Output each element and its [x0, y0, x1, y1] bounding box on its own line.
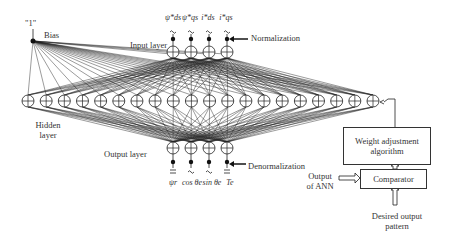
neural-network-diagram	[0, 0, 455, 239]
weight-adjustment-line2: algorithm	[370, 146, 403, 156]
input-symbol-4: i*qs	[211, 13, 241, 22]
hidden-layer-label-line2: layer	[28, 130, 68, 140]
output-of-ann-line1: Output	[300, 171, 340, 181]
weight-adjustment-line1: Weight adjustment	[355, 136, 419, 146]
hidden-layer-label: Hidden layer	[28, 120, 68, 140]
denormalization-label: Denormalization	[248, 161, 305, 171]
bias-label: Bias	[44, 30, 59, 40]
desired-output-label: Desired output pattern	[362, 211, 432, 231]
comparator-box: Comparator	[360, 169, 427, 189]
desired-output-line1: Desired output	[362, 211, 432, 221]
input-layer-label: Input layer	[130, 40, 167, 50]
output-of-ann-label: Output of ANN	[300, 171, 340, 191]
hidden-layer-label-line1: Hidden	[28, 120, 68, 130]
normalization-label: Normalization	[251, 33, 300, 43]
output-symbol-4: Te	[215, 178, 245, 187]
output-layer-label: Output layer	[104, 149, 147, 159]
output-of-ann-line2: of ANN	[300, 181, 340, 191]
desired-output-line2: pattern	[362, 221, 432, 231]
weight-adjustment-box: Weight adjustment algorithm	[343, 127, 431, 165]
bias-value-label: "1"	[25, 18, 36, 28]
connection-lines	[28, 41, 373, 142]
